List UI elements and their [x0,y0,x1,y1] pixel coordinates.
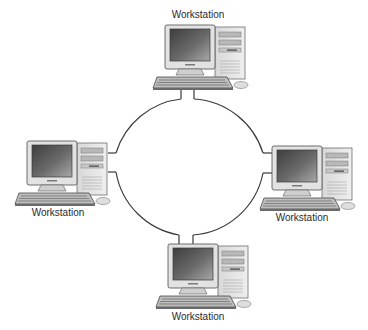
computer-icon [153,25,248,90]
computer-icon [156,244,251,309]
workstation-right: Workstation [260,146,355,223]
workstation-label-top: Workstation [172,9,225,20]
workstation-bottom: Workstation [156,244,251,322]
computer-icon [260,146,355,211]
workstation-top: Workstation [153,9,248,90]
computer-icon [15,141,110,206]
ring-segment-top-right [194,99,263,153]
workstation-label-left: Workstation [32,207,85,218]
ring [116,99,263,235]
workstation-left: Workstation [15,141,110,218]
ring-segment-bottom-left [116,172,179,235]
ring-network-diagram: Workstation Workstation Workstation Work… [0,0,368,330]
ring-segment-top-left [116,99,181,153]
ring-segment-bottom-right [193,173,263,235]
workstation-label-bottom: Workstation [172,311,225,322]
connection-stubs [108,90,272,245]
workstation-label-right: Workstation [276,212,329,223]
